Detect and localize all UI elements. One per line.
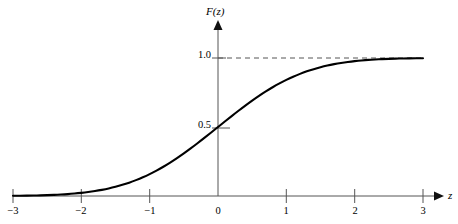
x-axis-arrowhead bbox=[434, 192, 444, 201]
y-tick-marks bbox=[212, 58, 230, 128]
chart-canvas bbox=[0, 0, 458, 224]
y-axis-arrowhead bbox=[214, 20, 223, 30]
x-tick-label--1: −1 bbox=[144, 206, 155, 217]
y-tick-label-1-0: 1.0 bbox=[198, 50, 211, 61]
x-tick-label--2: −2 bbox=[75, 206, 86, 217]
x-tick-label-0: 0 bbox=[215, 206, 220, 217]
x-tick-label-2: 2 bbox=[352, 206, 357, 217]
chart-figure: F(z) z −3 −2 −1 0 1 2 3 0.5 1.0 bbox=[0, 0, 458, 224]
x-tick-label--3: −3 bbox=[7, 206, 18, 217]
x-tick-label-1: 1 bbox=[283, 206, 288, 217]
x-tick-label-3: 3 bbox=[420, 206, 425, 217]
axes-group bbox=[13, 20, 444, 201]
y-axis-label: F(z) bbox=[206, 6, 224, 17]
x-axis-label: z bbox=[448, 190, 452, 201]
y-tick-label-0-5: 0.5 bbox=[198, 120, 211, 131]
